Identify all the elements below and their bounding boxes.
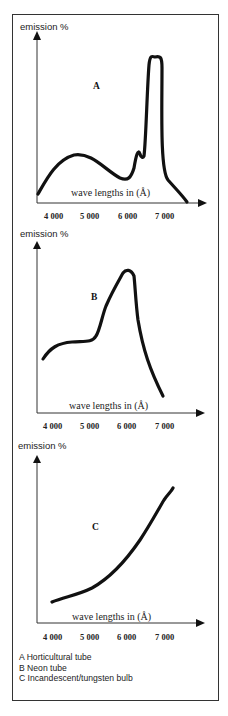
y-axis-arrow-icon [33,241,41,249]
y-axis-label: emission % [18,440,67,451]
legend: A Horticultural tube B Neon tube C Incan… [19,652,133,684]
curve-b [43,270,163,396]
x-axis-arrow-icon [196,619,205,627]
y-axis-label: emission % [20,228,69,239]
curve-label-c: C [92,522,99,532]
curve-label-a: A [93,81,100,91]
curve-a [38,56,187,202]
x-axis-label: wave lengths in (Å) [72,611,151,623]
x-tick-6000: 6 000 [117,632,136,642]
x-axis-label: wave lengths in (Å) [71,187,150,199]
legend-item-a: A Horticultural tube [19,652,133,663]
x-axis-arrow-icon [196,409,205,417]
x-axis-arrow-icon [198,199,207,207]
x-axis-label: wave lengths in (Å) [69,400,148,412]
chart-panel-a: emission % A wave lengths in (Å) 4 000 5… [0,0,228,225]
curve-c [52,488,173,602]
y-axis-arrow-icon [33,31,41,40]
chart-panel-c: emission % C wave lengths in (Å) 4 000 5… [0,430,228,650]
legend-item-c: C Incandescent/tungsten bulb [19,673,133,684]
x-tick-7000: 7 000 [155,632,174,642]
legend-item-b: B Neon tube [19,663,133,674]
y-axis-arrow-icon [33,455,41,463]
x-tick-4000: 4 000 [43,632,62,642]
chart-panel-b: emission % B wave lengths in (Å) 4 000 5… [0,220,228,435]
curve-label-b: B [91,292,98,302]
x-tick-5000: 5 000 [80,632,99,642]
y-axis-label: emission % [20,21,69,32]
